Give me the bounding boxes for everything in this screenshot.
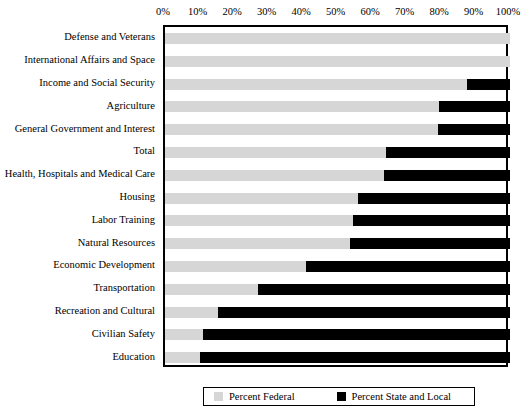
y-axis-category-label: Housing [119,191,155,202]
x-axis-tick-label: 80% [429,6,448,17]
bar-segment-percent-federal [165,261,306,272]
y-axis-category-label: Health, Hospitals and Medical Care [5,168,155,179]
y-axis-category-label: Agriculture [107,99,155,110]
bar-segment-percent-federal [165,124,438,135]
bar-segment-percent-state-and-local [258,284,510,295]
legend-swatch-icon-state-local [337,392,346,401]
bar-segment-percent-state-and-local [350,238,510,249]
bar-segment-percent-federal [165,284,258,295]
y-axis-category-label: Labor Training [92,213,155,224]
stacked-bar-chart: 0%10%20%30%40%50%60%70%80%90%100% Defens… [0,0,524,415]
bar-row [165,352,506,363]
y-axis-category-label: General Government and Interest [15,122,155,133]
bar-row [165,307,506,318]
bar-segment-percent-state-and-local [218,307,510,318]
legend-item-percent-state-and-local: Percent State and Local [337,391,451,402]
bar-row [165,147,506,158]
chart-legend: Percent Federal Percent State and Local [203,387,475,406]
bar-segment-percent-federal [165,352,200,363]
bar-segment-percent-state-and-local [438,124,510,135]
y-axis-category-label: Civilian Safety [92,327,155,338]
x-axis-tick-label: 70% [395,6,414,17]
bar-segment-percent-federal [165,33,510,44]
y-axis-category-label: Recreation and Cultural [55,305,155,316]
bar-segment-percent-federal [165,101,439,112]
bar-segment-percent-federal [165,329,203,340]
y-axis-category-label: Natural Resources [78,236,155,247]
bar-row [165,124,506,135]
bar-segment-percent-state-and-local [200,352,511,363]
x-axis-tick-label: 0% [156,6,170,17]
bar-row [165,215,506,226]
bar-row [165,329,506,340]
x-axis-tick-label: 10% [188,6,207,17]
bar-segment-percent-federal [165,56,510,67]
bar-segment-percent-federal [165,147,386,158]
bar-segment-percent-federal [165,215,353,226]
bar-segment-percent-federal [165,79,467,90]
x-axis-tick-label: 30% [257,6,276,17]
bar-row [165,193,506,204]
bar-segment-percent-state-and-local [384,170,510,181]
y-axis-category-label: Education [112,350,155,361]
x-axis-tick-label: 40% [291,6,310,17]
y-axis-category-label: International Affairs and Space [24,54,155,65]
bar-row [165,33,506,44]
bar-row [165,170,506,181]
x-axis-tick-label: 90% [464,6,483,17]
x-axis-tick-label: 100% [496,6,521,17]
bar-segment-percent-federal [165,193,358,204]
x-axis-tick-label: 60% [360,6,379,17]
x-axis-tick-label: 50% [326,6,345,17]
y-axis-category-labels: Defense and VeteransInternational Affair… [0,25,159,367]
bar-segment-percent-state-and-local [358,193,510,204]
bar-segment-percent-state-and-local [306,261,510,272]
bar-segment-percent-state-and-local [439,101,510,112]
bar-row [165,79,506,90]
legend-swatch-icon-federal [214,392,223,401]
legend-label-federal: Percent Federal [229,391,295,402]
legend-label-state-local: Percent State and Local [352,391,451,402]
bar-row [165,284,506,295]
y-axis-category-label: Income and Social Security [39,77,155,88]
legend-item-percent-federal: Percent Federal [214,391,295,402]
bar-segment-percent-state-and-local [386,147,510,158]
y-axis-category-label: Defense and Veterans [64,31,155,42]
bar-row [165,238,506,249]
y-axis-category-label: Total [134,145,155,156]
bar-segment-percent-federal [165,238,350,249]
x-axis-tick-labels: 0%10%20%30%40%50%60%70%80%90%100% [163,6,508,22]
bars-container [165,27,506,365]
bar-segment-percent-federal [165,307,218,318]
bar-row [165,261,506,272]
bar-segment-percent-state-and-local [353,215,510,226]
y-axis-category-label: Economic Development [53,259,155,270]
bar-segment-percent-state-and-local [467,79,510,90]
bar-row [165,101,506,112]
y-axis-category-label: Transportation [94,282,155,293]
bar-segment-percent-federal [165,170,384,181]
plot-area [163,25,508,367]
x-axis-tick-label: 20% [222,6,241,17]
bar-segment-percent-state-and-local [203,329,510,340]
bar-row [165,56,506,67]
